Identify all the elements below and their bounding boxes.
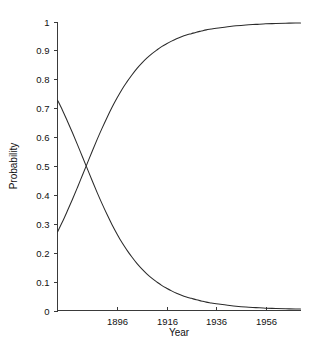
y-tick-label: 0.2 (36, 248, 49, 259)
probability-vs-year-line-chart: 00.10.20.30.40.50.60.70.80.91 1896191619… (0, 0, 316, 354)
y-tick-marks (54, 23, 58, 312)
y-tick-label: 1 (44, 17, 49, 28)
series-line-falling-probability (58, 100, 301, 309)
y-tick-label: 0.1 (36, 277, 49, 288)
x-tick-labels: 1896191619361956 (107, 316, 277, 327)
y-tick-label: 0.7 (36, 103, 49, 114)
y-tick-label: 0.5 (36, 161, 49, 172)
chart-figure: 00.10.20.30.40.50.60.70.80.91 1896191619… (0, 0, 316, 354)
x-tick-label: 1936 (206, 316, 227, 327)
y-tick-labels: 00.10.20.30.40.50.60.70.80.91 (36, 17, 49, 317)
y-tick-label: 0.3 (36, 219, 49, 230)
x-tick-label: 1896 (107, 316, 128, 327)
y-tick-label: 0.6 (36, 132, 49, 143)
x-axis-title: Year (169, 327, 190, 338)
x-tick-label: 1916 (157, 316, 178, 327)
series-line-rising-probability (58, 23, 301, 232)
y-tick-label: 0 (44, 306, 49, 317)
series-lines (58, 23, 301, 309)
y-tick-label: 0.4 (36, 190, 49, 201)
axes-group (58, 22, 301, 311)
y-axis-title: Probability (8, 143, 19, 190)
y-tick-label: 0.9 (36, 45, 49, 56)
x-tick-label: 1956 (256, 316, 277, 327)
y-tick-label: 0.8 (36, 74, 49, 85)
